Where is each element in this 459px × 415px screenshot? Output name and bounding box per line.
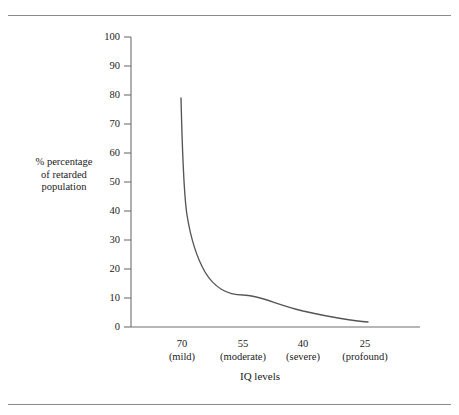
data-curve-series-1 xyxy=(181,98,368,322)
y-axis-ticks xyxy=(124,37,131,327)
y-tick-label-90: 90 xyxy=(90,60,120,71)
y-tick-label-40: 40 xyxy=(90,205,120,216)
x-tick-sublabel-profound: (profound) xyxy=(328,350,402,363)
chart-page: % percentage of retarded population 100 … xyxy=(0,0,459,415)
y-tick-label-10: 10 xyxy=(90,292,120,303)
chart-figure: % percentage of retarded population 100 … xyxy=(0,0,459,415)
x-tick-group-25: 25 (profound) xyxy=(328,337,402,363)
y-tick-label-0: 0 xyxy=(90,321,120,332)
y-tick-label-70: 70 xyxy=(90,118,120,129)
y-tick-label-30: 30 xyxy=(90,234,120,245)
x-axis-title: IQ levels xyxy=(185,370,335,382)
y-tick-label-100: 100 xyxy=(90,31,120,42)
y-tick-label-60: 60 xyxy=(90,147,120,158)
y-axis-title: % percentage of retarded population xyxy=(20,156,108,194)
x-tick-label-25: 25 xyxy=(328,337,402,350)
y-tick-label-80: 80 xyxy=(90,89,120,100)
y-tick-label-20: 20 xyxy=(90,263,120,274)
y-tick-label-50: 50 xyxy=(90,176,120,187)
